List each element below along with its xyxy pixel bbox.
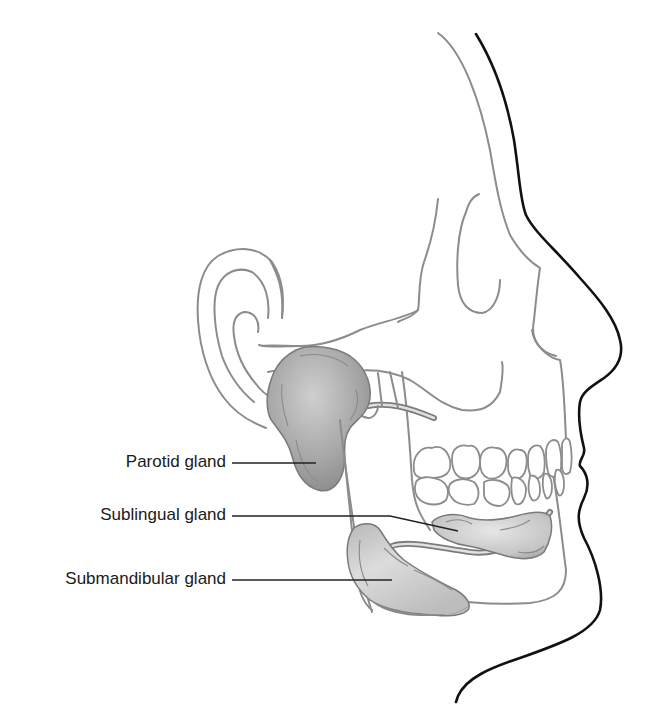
- label-parotid-gland: Parotid gland: [126, 452, 226, 472]
- parotid-gland-shape: [267, 347, 370, 491]
- salivary-glands-diagram: Parotid gland Sublingual gland Submandib…: [0, 0, 656, 712]
- zygomatic-arch-outline: [262, 310, 418, 346]
- maxilla-outline: [532, 330, 566, 440]
- zygoma-front-outline: [398, 199, 438, 322]
- ear-concha: [233, 312, 272, 398]
- anatomy-illustration: [0, 0, 656, 712]
- ear-inner-helix: [215, 270, 269, 402]
- nasal-bone-outline: [438, 33, 556, 356]
- label-submandibular-gland: Submandibular gland: [65, 569, 226, 589]
- label-sublingual-gland: Sublingual gland: [100, 505, 226, 525]
- sublingual-leader-line: [232, 516, 458, 531]
- orbit-outline: [457, 194, 500, 313]
- upper-teeth: [414, 438, 572, 478]
